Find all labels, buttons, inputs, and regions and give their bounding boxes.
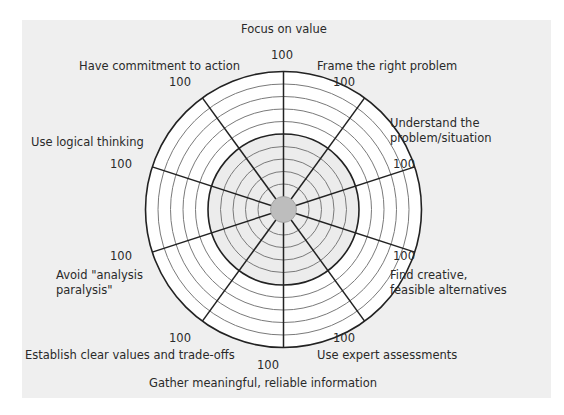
label-gather-information: Gather meaningful, reliable information bbox=[149, 376, 377, 391]
label-use-logical-thinking: Use logical thinking bbox=[31, 135, 144, 150]
label-have-commitment: Have commitment to action bbox=[79, 59, 240, 74]
value-use-expert: 100 bbox=[333, 331, 355, 345]
label-establish-values: Establish clear values and trade-offs bbox=[25, 348, 235, 363]
center-disc bbox=[271, 197, 297, 223]
value-gather-information: 100 bbox=[257, 358, 279, 372]
value-have-commitment: 100 bbox=[169, 75, 191, 89]
label-find-line2: feasible alternatives bbox=[390, 283, 507, 298]
value-frame-the-right-problem: 100 bbox=[333, 75, 355, 89]
label-avoid-line2: paralysis" bbox=[56, 283, 113, 298]
value-understand: 100 bbox=[393, 157, 415, 171]
value-avoid-analysis: 100 bbox=[110, 249, 132, 263]
label-focus-on-value: Focus on value bbox=[241, 22, 327, 37]
value-use-logical-thinking: 100 bbox=[110, 157, 132, 171]
label-understand-line2: problem/situation bbox=[390, 131, 492, 146]
label-use-expert-assessments: Use expert assessments bbox=[317, 348, 457, 363]
value-find-creative: 100 bbox=[393, 249, 415, 263]
label-frame-the-right-problem: Frame the right problem bbox=[317, 59, 457, 74]
label-find-line1: Find creative, bbox=[390, 268, 467, 283]
label-understand-line1: Understand the bbox=[390, 116, 479, 131]
label-avoid-line1: Avoid "analysis bbox=[56, 268, 143, 283]
value-focus-on-value: 100 bbox=[271, 48, 293, 62]
value-establish-values: 100 bbox=[169, 331, 191, 345]
